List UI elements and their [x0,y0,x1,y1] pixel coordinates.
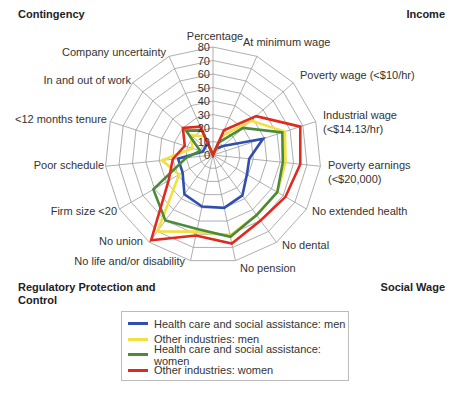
scale-title: Percentage [187,30,243,42]
tick-label: 50 [198,82,210,94]
chart-legend: Health care and social assistance: men O… [121,311,349,381]
tick-label: 30 [198,109,210,121]
tick-label: 80 [198,41,210,53]
legend-label: Health care and social assistance: women [154,343,348,367]
legend-swatch-3 [128,369,148,372]
legend-swatch-2 [128,353,148,356]
axis-label: Company uncertainty [62,46,166,58]
tick-label: 20 [198,122,210,134]
axis-label: No life and/or disability [74,255,185,267]
tick-label: 70 [198,55,210,67]
axis-label: No union [99,235,143,247]
legend-label: Other industries: women [154,364,273,376]
legend-item: Health care and social assistance: men [128,316,348,332]
axis-label: Poverty wage (<$10/hr) [300,69,415,81]
axis-label: <12 months tenure [15,113,107,125]
legend-item: Health care and social assistance: women [128,347,348,363]
axis-label: No pension [240,262,296,274]
axis-label: In and out of work [44,74,132,86]
axis-label: Poor schedule [34,159,104,171]
axis-label: Firm size <20 [51,205,117,217]
radar-chart: 01020304050607080PercentageAt minimum wa… [0,0,467,300]
tick-label: 10 [198,136,210,148]
legend-swatch-1 [128,338,148,341]
tick-label: 60 [198,68,210,80]
tick-label: 0 [204,149,210,161]
axis-label: Industrial wage(<$14.13/hr) [323,109,397,135]
legend-label: Health care and social assistance: men [154,318,345,330]
legend-swatch-0 [128,322,148,325]
tick-label: 40 [198,95,210,107]
axis-label: At minimum wage [243,36,330,48]
axis-label: Poverty earnings(<$20,000) [328,159,411,185]
axis-label: No extended health [312,205,407,217]
axis-label: No dental [282,239,329,251]
